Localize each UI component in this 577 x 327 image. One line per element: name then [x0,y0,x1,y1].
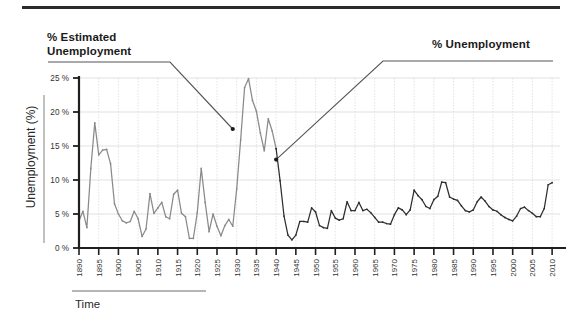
series-point [279,180,281,182]
series-point [330,210,332,212]
series-point [240,139,242,141]
series-point [283,215,285,217]
series-point [256,110,258,112]
x-tick-label: 1890 [75,258,84,276]
series-point [307,221,309,223]
x-tick-label: 2010 [548,258,557,276]
series-point [547,184,549,186]
x-tick-label: 1905 [134,258,143,276]
x-tick-label: 2005 [528,258,537,276]
x-tick-label: 2000 [509,258,518,276]
series-point [476,201,478,203]
series-point [315,211,317,213]
series-point [409,209,411,211]
series-point [204,202,206,204]
series-point [216,225,218,227]
series-point [465,210,467,212]
series-point [248,78,250,80]
x-tick-label: 1980 [430,258,439,276]
series-point [125,222,127,224]
series-point [137,218,139,220]
series-point [488,206,490,208]
series-point [417,195,419,197]
x-tick-label: 1935 [252,258,261,276]
series-point [413,189,415,191]
series-point [401,209,403,211]
series-point [433,199,435,201]
series-point [224,225,226,227]
series-point [263,150,265,152]
series-point [512,220,514,222]
x-tick-label: 1920 [193,258,202,276]
series-point [208,231,210,233]
series-point [374,217,376,219]
series-point [86,227,88,229]
series-point [110,163,112,165]
series-point [200,168,202,170]
series-point [244,87,246,89]
series-point [520,208,522,210]
series-point [425,206,427,208]
x-tick-label: 1975 [410,258,419,276]
annotation-leader-lines [48,61,553,162]
series-point [386,223,388,225]
series-point [98,154,100,156]
series-point [118,213,120,215]
series-point [169,218,171,220]
x-tick-label: 1965 [371,258,380,276]
series-point [220,235,222,237]
series-point [539,216,541,218]
x-tick-label: 1995 [489,258,498,276]
x-tick-label: 1960 [351,258,360,276]
series-point [122,220,124,222]
series-point [370,212,372,214]
series-point [271,130,273,132]
series-point [504,217,506,219]
leader-anchor-estimated [231,127,235,131]
series-point [90,168,92,170]
series-point [472,209,474,211]
series-point [524,206,526,208]
series-point [145,228,147,230]
x-tick-label: 1950 [312,258,321,276]
series-point [252,100,254,102]
series-point [437,195,439,197]
series-point [338,219,340,221]
series-point [480,196,482,198]
series-point [157,207,159,209]
unemployment-line-chart: 0 %5 %10 %15 %20 %25 % 18901895190019051… [0,0,577,327]
x-tick-label: 1985 [450,258,459,276]
series-point [421,199,423,201]
y-tick-label: 20 % [50,108,69,117]
series-point [102,149,104,151]
series-point [532,212,534,214]
series-point [445,182,447,184]
x-tick-label: 1910 [154,258,163,276]
series-point [212,213,214,215]
series-point [468,211,470,213]
series-point [405,214,407,216]
leader-line-unemployment [276,61,553,160]
series-point [94,122,96,124]
series-point [192,238,194,240]
x-tick-label: 1955 [331,258,340,276]
x-tick-label: 1895 [95,258,104,276]
series-point [500,214,502,216]
series-point [295,234,297,236]
series-point [350,210,352,212]
series-point [508,219,510,221]
series-point [484,200,486,202]
series-point [358,202,360,204]
series-point [429,208,431,210]
series-point [185,216,187,218]
series-point [543,208,545,210]
series-point [177,189,179,191]
series-point [362,210,364,212]
series-point [394,214,396,216]
series-point [441,181,443,183]
series-point [260,132,262,134]
series-point [165,216,167,218]
series-point [299,221,301,223]
x-tick-label: 1990 [469,258,478,276]
series-point [153,212,155,214]
